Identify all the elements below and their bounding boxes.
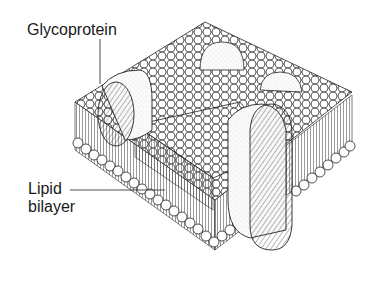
membrane-illustration: [0, 0, 390, 281]
membrane-diagram: Glycoprotein Lipid bilayer: [0, 0, 390, 281]
lipid-bilayer-label-line1: Lipid: [28, 180, 75, 198]
glycoprotein-label: Glycoprotein: [27, 21, 117, 39]
glycoprotein-left: [98, 70, 152, 146]
glycoprotein-right: [228, 104, 292, 250]
lipid-bilayer-label: Lipid bilayer: [28, 180, 75, 216]
lipid-bilayer-label-line2: bilayer: [28, 198, 75, 216]
